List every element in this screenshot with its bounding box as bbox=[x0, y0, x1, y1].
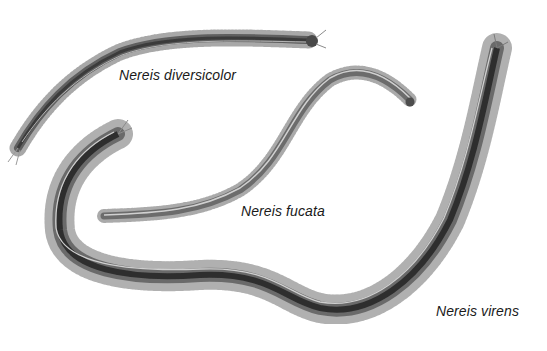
label-nereis-diversicolor: Nereis diversicolor bbox=[119, 67, 236, 83]
worm-nereis-fucata bbox=[104, 71, 415, 216]
illustration-canvas: Nereis diversicolor Nereis fucata Nereis… bbox=[0, 0, 547, 351]
head-icon bbox=[306, 35, 318, 47]
label-nereis-fucata: Nereis fucata bbox=[241, 203, 325, 219]
worms-drawing bbox=[0, 0, 547, 351]
label-nereis-virens: Nereis virens bbox=[436, 303, 519, 319]
